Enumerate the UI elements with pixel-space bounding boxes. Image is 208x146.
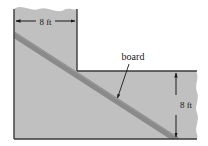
gray-region-fill — [14, 7, 198, 139]
board-callout-label: board — [122, 51, 145, 62]
right-dimension-label: 8 ft — [180, 100, 193, 110]
geometry-diagram: 8 ft 8 ft board — [0, 0, 208, 146]
top-dimension-label: 8 ft — [39, 17, 52, 27]
figure-container: 8 ft 8 ft board — [0, 0, 208, 146]
